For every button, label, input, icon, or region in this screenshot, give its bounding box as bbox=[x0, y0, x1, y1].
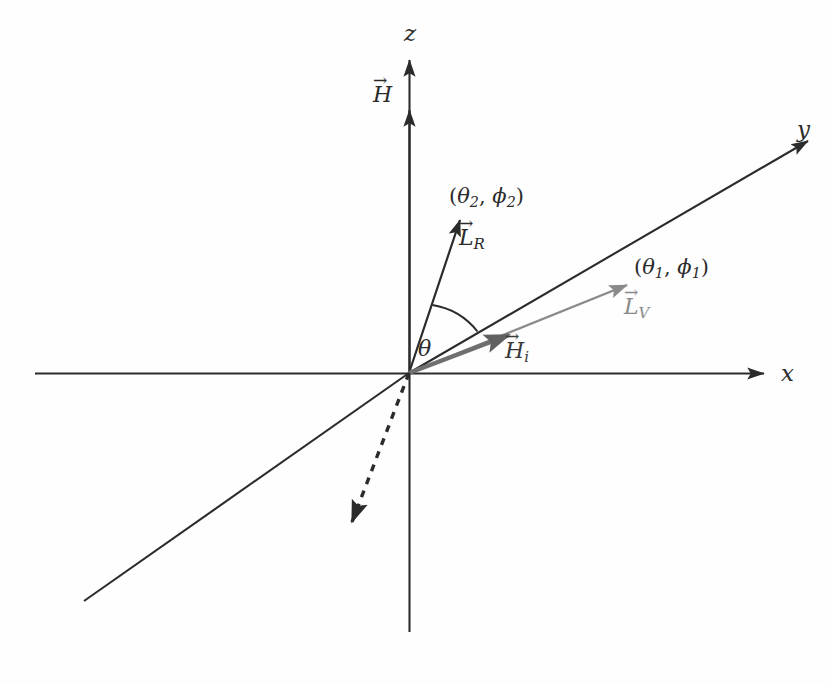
coords1-phi-symbol: ϕ bbox=[677, 255, 691, 279]
coords1-close-paren: ) bbox=[701, 255, 709, 279]
coords2-comma: , bbox=[479, 184, 492, 208]
hi-vector-subscript: i bbox=[524, 348, 529, 366]
y-axis-positive-line bbox=[409, 141, 808, 373]
lr-vector-label: →LR bbox=[459, 227, 485, 252]
theta-angle-arc bbox=[433, 305, 478, 332]
coords2-theta-subscript: 2 bbox=[470, 194, 479, 210]
z-axis-label: z bbox=[404, 22, 416, 45]
diagram-canvas: z y x →H →LR →LV →Hi θ (θ2, ϕ2) (θ1, ϕ1) bbox=[0, 0, 829, 684]
h-vector-label: →H bbox=[373, 84, 392, 106]
lr-vector-line bbox=[409, 220, 460, 373]
x-axis-label: x bbox=[781, 362, 794, 385]
coords2-close-paren: ) bbox=[516, 184, 524, 208]
hi-vector-label: →Hi bbox=[505, 340, 529, 365]
vector-diagram-svg bbox=[0, 0, 829, 684]
y-axis-label: y bbox=[797, 118, 810, 141]
lv-vector-arrow-accent: → bbox=[624, 284, 638, 301]
h-vector-arrow-accent: → bbox=[373, 72, 387, 89]
coords2-phi-subscript: 2 bbox=[507, 194, 516, 210]
lr-vector-arrow-accent: → bbox=[459, 215, 473, 232]
coords2-open-paren: ( bbox=[449, 184, 457, 208]
coords2-phi-symbol: ϕ bbox=[492, 184, 506, 208]
lv-vector-label: →LV bbox=[624, 296, 649, 321]
y-axis-negative-line bbox=[84, 373, 409, 601]
hi-vector-arrow-accent: → bbox=[505, 328, 519, 345]
coords1-theta-symbol: θ bbox=[642, 255, 655, 279]
coords1-phi-subscript: 1 bbox=[692, 265, 701, 281]
dashed-projection-vector bbox=[352, 373, 409, 522]
coords-theta2-phi2: (θ2, ϕ2) bbox=[449, 186, 524, 209]
coords2-theta-symbol: θ bbox=[457, 184, 470, 208]
lr-vector-subscript: R bbox=[474, 235, 485, 253]
lv-vector-subscript: V bbox=[639, 304, 650, 322]
coords-theta1-phi1: (θ1, ϕ1) bbox=[634, 257, 709, 280]
coords1-open-paren: ( bbox=[634, 255, 642, 279]
coords1-theta-subscript: 1 bbox=[655, 265, 664, 281]
coords1-comma: , bbox=[664, 255, 677, 279]
theta-angle-label: θ bbox=[418, 338, 431, 360]
